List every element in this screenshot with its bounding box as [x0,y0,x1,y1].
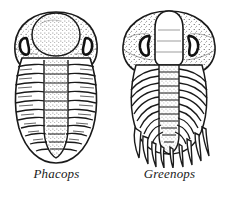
phacops-glabella [32,13,80,56]
greenops-cephalon [123,11,215,71]
phacops-axial-lobe [44,58,68,158]
greenops-glabella [155,11,183,68]
trilobite-figure-plate: Phacops [0,0,226,197]
caption-phacops: Phacops [0,166,113,182]
greenops-illustration [113,8,226,168]
caption-greenops: Greenops [113,166,226,182]
greenops-eye-left [140,36,150,56]
phacops-eye-left [20,38,29,55]
phacops-body [14,58,97,163]
greenops-axial-lobe [159,65,179,154]
specimen-greenops: Greenops [113,0,226,197]
phacops-illustration [0,8,113,168]
greenops-eye-right [188,36,198,56]
phacops-eye-right [83,38,92,55]
specimen-phacops: Phacops [0,0,113,197]
